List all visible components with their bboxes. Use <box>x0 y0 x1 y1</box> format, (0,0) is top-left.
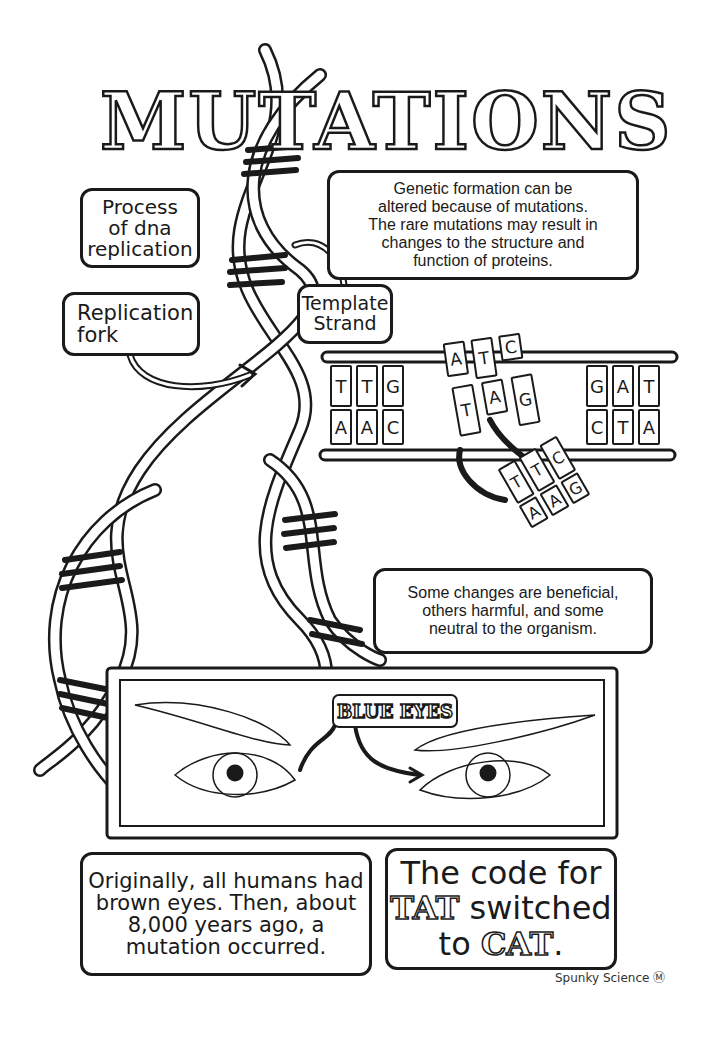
base-tile: A <box>481 378 509 415</box>
label-line: replication <box>87 239 192 260</box>
code-word: to <box>439 925 471 963</box>
label-template-strand: Template Strand <box>297 284 393 344</box>
info-box-code-switch: The code for TAT switched to CAT. <box>385 848 617 970</box>
blue-eyes-label: BLUE EYES <box>332 694 458 728</box>
label-process-dna-replication: Process of dna replication <box>80 188 200 268</box>
info-line: altered because of mutations. <box>378 198 588 216</box>
codon-tat: TAT <box>390 889 459 927</box>
label-line: Process <box>102 197 178 218</box>
info-line: Some changes are beneficial, <box>408 584 619 602</box>
code-word: switched <box>469 889 611 927</box>
info-line: function of proteins. <box>413 252 553 270</box>
base-tile: C <box>498 333 523 362</box>
info-line: The rare mutations may result in <box>368 216 597 234</box>
info-line: brown eyes. Then, about <box>96 892 356 914</box>
base-tile: C <box>382 409 404 445</box>
base-tile: A <box>612 365 634 407</box>
page-title: MUTATIONS <box>100 76 610 168</box>
label-replication-fork: Replication fork <box>62 292 200 356</box>
base-tile: T <box>638 365 660 407</box>
label-line: Strand <box>313 314 376 334</box>
info-line: 8,000 years ago, a <box>128 914 325 936</box>
label-line: fork <box>77 324 118 346</box>
code-line: to CAT. <box>439 927 564 962</box>
blue-eyes-text: BLUE EYES <box>337 701 453 722</box>
code-line: The code for <box>400 856 601 891</box>
info-line: Originally, all humans had <box>88 870 363 892</box>
brand-footer: Spunky Science Ⓜ <box>555 968 665 985</box>
base-tile: G <box>382 365 404 407</box>
codon-cat: CAT <box>481 925 553 963</box>
base-tile: A <box>356 409 378 445</box>
base-tile: A <box>330 409 352 445</box>
info-line: changes to the structure and <box>382 234 585 252</box>
code-word: . <box>553 925 563 963</box>
base-tile: G <box>586 365 608 407</box>
code-line: TAT switched <box>390 891 611 926</box>
label-line: Replication <box>77 302 193 324</box>
base-pairs-right: G A T C T A <box>586 365 660 445</box>
label-line: of dna <box>108 218 171 239</box>
info-box-origin: Originally, all humans had brown eyes. T… <box>80 852 372 976</box>
base-pairs-left: T T G A A C <box>330 365 404 445</box>
info-box-genetic-formation: Genetic formation can be altered because… <box>327 170 639 280</box>
base-tile: T <box>356 365 378 407</box>
info-line: others harmful, and some <box>422 602 603 620</box>
label-line: Template <box>302 294 389 314</box>
base-tile: T <box>470 337 497 380</box>
base-tile: A <box>443 341 470 378</box>
info-box-changes: Some changes are beneficial, others harm… <box>373 568 653 654</box>
base-tile: T <box>330 365 352 407</box>
base-tile: T <box>612 409 634 445</box>
base-tile: C <box>586 409 608 445</box>
info-line: Genetic formation can be <box>394 180 573 198</box>
info-line: neutral to the organism. <box>429 620 597 638</box>
info-line: mutation occurred. <box>126 936 326 958</box>
base-tile: A <box>638 409 660 445</box>
